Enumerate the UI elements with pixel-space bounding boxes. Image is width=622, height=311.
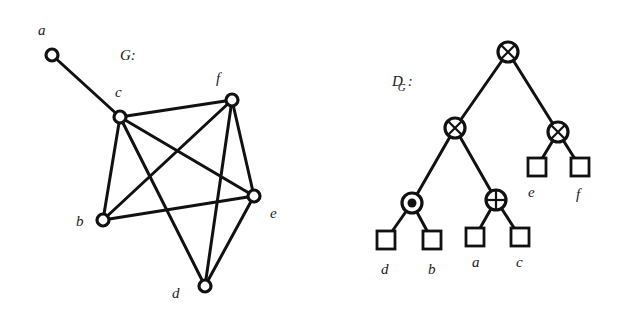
vertex-a — [46, 49, 58, 61]
vertex-label-b: b — [76, 213, 84, 229]
vertex-c — [114, 111, 126, 123]
tree-leaf-label-c: c — [516, 254, 523, 270]
tree-leaf-b — [423, 231, 441, 249]
circle-times-icon — [445, 118, 465, 138]
tree-leaf-a — [466, 228, 484, 246]
vertex-b — [97, 214, 109, 226]
tree-leaf-c — [511, 228, 529, 246]
vertex-d — [199, 280, 211, 292]
circle-dot-icon — [402, 193, 422, 213]
tree-leaf-f — [571, 158, 589, 176]
vertex-label-a: a — [38, 22, 46, 38]
tree-title-subscript: G — [398, 81, 406, 93]
graph-edges — [52, 55, 254, 286]
graph-edge-a-c — [52, 55, 120, 117]
graph-vertices — [46, 49, 260, 292]
tree-leaf-label-e: e — [528, 184, 535, 200]
tree-leaf-d — [377, 231, 395, 249]
tree-leaf-e — [528, 158, 546, 176]
vertex-e — [248, 190, 260, 202]
graph-title: G: — [120, 47, 136, 63]
graph-vertex-labels: abcdef — [38, 22, 277, 301]
vertex-f — [226, 94, 238, 106]
vertex-label-f: f — [216, 70, 222, 86]
tree-leaf-label-f: f — [576, 186, 582, 202]
tree-leaf-label-b: b — [428, 261, 436, 277]
tree-edge-left-plus — [455, 128, 496, 200]
circle-times-icon — [498, 42, 518, 62]
vertex-label-d: d — [172, 285, 180, 301]
graph-g: G: abcdef — [38, 22, 277, 301]
figure-canvas: G: abcdef DG: dbacef — [0, 0, 622, 311]
tree-leaf-label-d: d — [381, 261, 389, 277]
tree-edge-root-right — [508, 52, 558, 132]
decomposition-tree: DG: dbacef — [377, 42, 589, 277]
tree-title-colon: : — [408, 73, 413, 89]
tree-title: DG: — [391, 73, 413, 93]
vertex-label-c: c — [115, 84, 122, 100]
tree-leaf-label-a: a — [472, 254, 480, 270]
circle-times-icon — [548, 122, 568, 142]
tree-edge-left-dot — [412, 128, 455, 203]
graph-edge-f-e — [232, 100, 254, 196]
tree-edge-root-left — [455, 52, 508, 128]
circle-plus-icon — [486, 190, 506, 210]
vertex-label-e: e — [270, 205, 277, 221]
